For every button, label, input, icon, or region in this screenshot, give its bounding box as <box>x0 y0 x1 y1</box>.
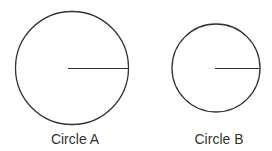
circle-a <box>16 12 129 125</box>
circles-diagram <box>0 0 272 151</box>
circle-b <box>172 24 260 112</box>
circle-b-label: Circle B <box>194 131 243 147</box>
circle-a-label: Circle A <box>51 131 99 147</box>
